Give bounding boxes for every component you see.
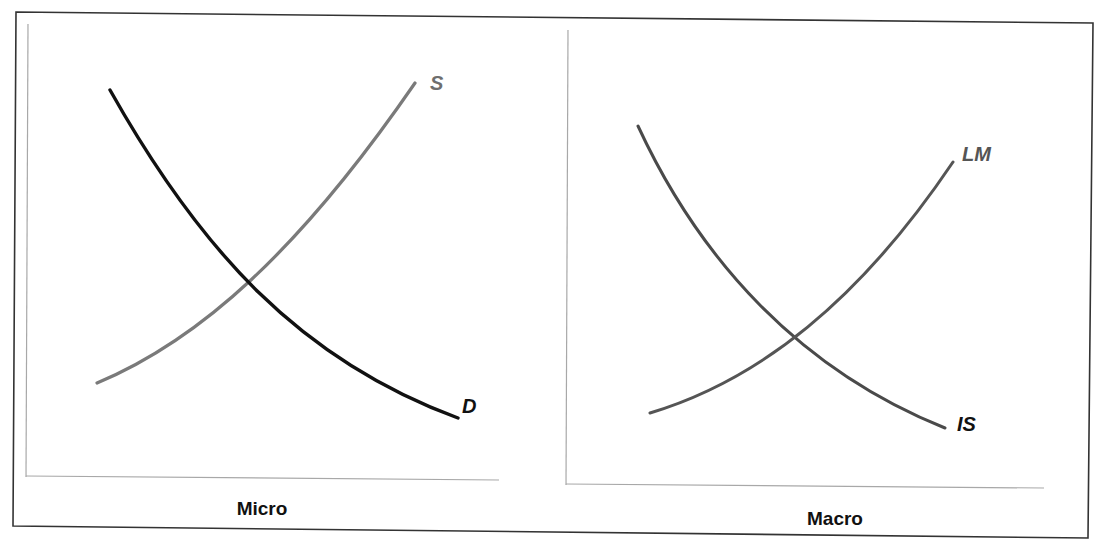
micro-panel: S D Micro: [26, 24, 499, 519]
micro-caption: Micro: [237, 498, 288, 519]
diagram-svg: S D Micro LM IS Macro: [0, 0, 1095, 540]
outer-frame: [13, 12, 1093, 538]
demand-label: D: [462, 395, 476, 417]
supply-label: S: [430, 72, 444, 94]
is-curve: [638, 126, 945, 428]
lm-curve: [650, 162, 953, 413]
macro-panel: LM IS Macro: [566, 30, 1044, 529]
macro-caption: Macro: [807, 508, 863, 529]
lm-label: LM: [962, 143, 992, 165]
micro-y-axis: [26, 24, 28, 477]
micro-x-axis: [26, 476, 499, 480]
supply-curve: [97, 83, 415, 383]
demand-curve: [110, 90, 458, 418]
macro-x-axis: [566, 484, 1044, 488]
figure: S D Micro LM IS Macro: [0, 0, 1095, 540]
macro-y-axis: [566, 30, 568, 485]
is-label: IS: [957, 413, 977, 435]
